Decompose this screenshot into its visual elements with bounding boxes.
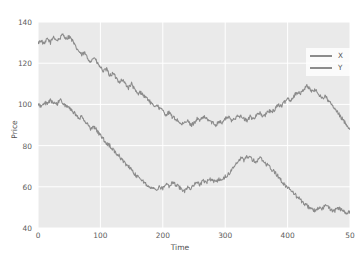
x-tick-label: 300 <box>218 231 232 240</box>
y-tick-label: 80 <box>23 141 32 150</box>
x-axis-label: Time <box>0 243 360 252</box>
chart-legend[interactable]: X Y <box>306 48 360 76</box>
x-tick-label: 100 <box>93 231 107 240</box>
data-series-layer <box>38 22 350 228</box>
figure-caption <box>0 262 360 269</box>
legend-label-x: X <box>338 51 343 61</box>
legend-label-y: Y <box>338 63 342 73</box>
x-tick-label: 400 <box>281 231 295 240</box>
x-tick-label: 0 <box>36 231 41 240</box>
legend-swatch-y <box>310 67 332 69</box>
y-tick-label: 40 <box>23 224 32 233</box>
y-tick-label: 60 <box>23 182 32 191</box>
plot-area: X Y <box>38 22 350 228</box>
x-tick-label: 200 <box>156 231 170 240</box>
legend-swatch-x <box>310 55 332 57</box>
y-axis-label: Price <box>10 100 19 160</box>
x-tick-label: 50 <box>345 231 354 240</box>
legend-item-y[interactable]: Y <box>310 63 360 73</box>
y-tick-label: 140 <box>18 18 32 27</box>
y-tick-label: 100 <box>18 100 32 109</box>
chart-figure: 406080100120140 Price X Y 01002003004005… <box>0 0 360 269</box>
legend-item-x[interactable]: X <box>310 51 360 61</box>
y-tick-label: 120 <box>18 59 32 68</box>
